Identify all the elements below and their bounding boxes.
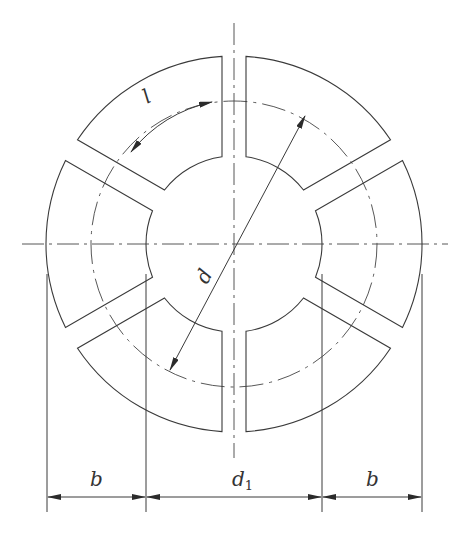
ring-segment — [78, 298, 223, 432]
segmented-ring-drawing: d l b d1 b — [0, 0, 468, 539]
ring-segment — [78, 56, 223, 190]
pitch-diameter-label: d — [190, 265, 217, 288]
width-right-label: b — [366, 467, 379, 491]
ring-segment — [246, 298, 391, 432]
pitch-diameter-dimension-line — [170, 116, 305, 370]
inner-diameter-label: d1 — [232, 467, 253, 493]
arc-length-dimension — [131, 102, 212, 152]
inner-diameter-subscript: 1 — [245, 478, 253, 493]
arc-length-label: l — [138, 84, 155, 108]
ring-segment — [246, 56, 391, 190]
width-left-label: b — [90, 467, 103, 491]
